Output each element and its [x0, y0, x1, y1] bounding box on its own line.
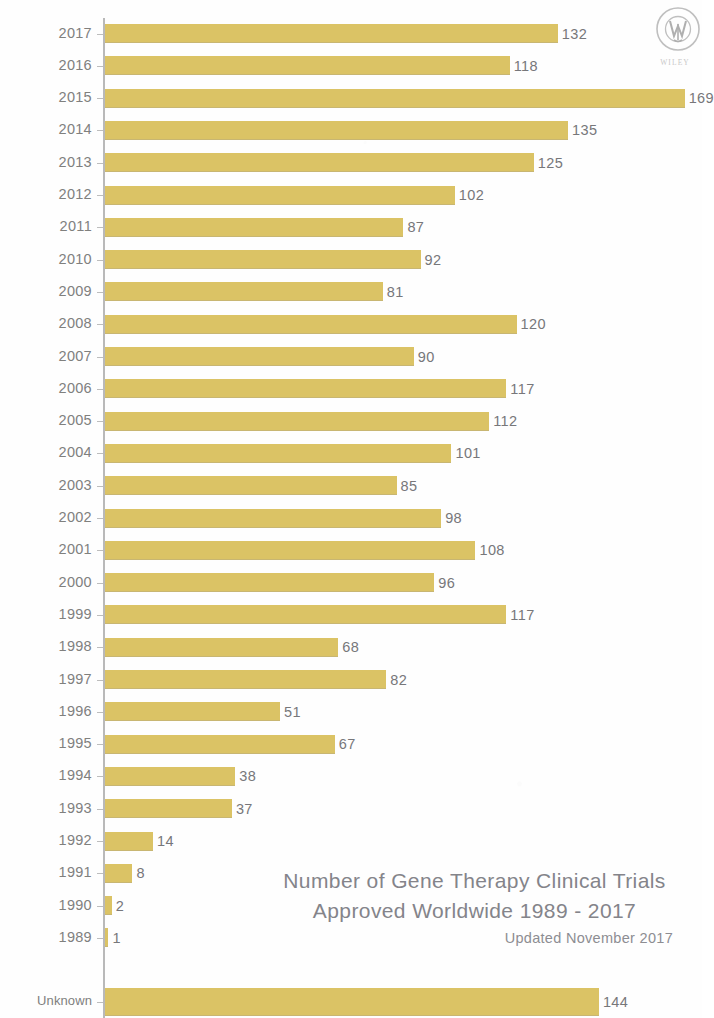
category-label-1994: 1994 — [0, 767, 92, 783]
value-label-1992: 14 — [157, 833, 174, 849]
axis-tick — [97, 292, 103, 293]
bar-row: 2016118 — [0, 54, 702, 79]
axis-tick — [97, 486, 103, 487]
bar-2003 — [105, 476, 397, 495]
value-label-2005: 112 — [493, 413, 517, 429]
value-label-unknown: 144 — [603, 994, 628, 1010]
value-label-2002: 98 — [445, 510, 462, 526]
bar-1993 — [105, 799, 232, 818]
category-label-2002: 2002 — [0, 509, 92, 525]
bar-2008 — [105, 315, 517, 334]
axis-tick — [97, 357, 103, 358]
value-label-2006: 117 — [510, 381, 534, 397]
chart-title-line-1: Number of Gene Therapy Clinical Trials — [262, 866, 687, 896]
axis-tick — [97, 34, 103, 35]
category-label-2014: 2014 — [0, 121, 92, 137]
axis-tick — [97, 227, 103, 228]
bar-1990 — [105, 896, 112, 915]
value-label-2011: 87 — [407, 219, 424, 235]
axis-tick — [97, 809, 103, 810]
bar-2005 — [105, 412, 489, 431]
category-label-1999: 1999 — [0, 606, 92, 622]
bar-2006 — [105, 379, 506, 398]
value-label-2010: 92 — [425, 252, 442, 268]
value-label-1997: 82 — [390, 672, 407, 688]
bar-row: 200096 — [0, 571, 702, 596]
axis-tick — [97, 98, 103, 99]
bar-row: 2015169 — [0, 87, 702, 112]
bar-row: 199651 — [0, 700, 702, 725]
category-label-2003: 2003 — [0, 477, 92, 493]
axis-tick — [97, 324, 103, 325]
value-label-1996: 51 — [284, 704, 301, 720]
axis-tick — [97, 389, 103, 390]
value-label-2012: 102 — [459, 187, 484, 203]
bar-row: 2001108 — [0, 539, 702, 564]
category-label-1992: 1992 — [0, 832, 92, 848]
value-label-2017: 132 — [562, 26, 587, 42]
bar-2001 — [105, 541, 475, 560]
value-label-2003: 85 — [401, 478, 418, 494]
category-label-1996: 1996 — [0, 703, 92, 719]
category-label-2010: 2010 — [0, 251, 92, 267]
bar-row: 2017132 — [0, 22, 702, 47]
bar-2013 — [105, 153, 534, 172]
value-label-1998: 68 — [342, 639, 359, 655]
bar-2016 — [105, 56, 510, 75]
bar-row: 2005112 — [0, 410, 702, 435]
axis-tick — [97, 66, 103, 67]
chart-title: Number of Gene Therapy Clinical Trials A… — [262, 866, 687, 926]
axis-tick — [97, 583, 103, 584]
category-label-1993: 1993 — [0, 800, 92, 816]
bar-1995 — [105, 735, 335, 754]
bar-unknown — [105, 988, 599, 1016]
value-label-2013: 125 — [538, 155, 563, 171]
category-label-2000: 2000 — [0, 574, 92, 590]
bar-2010 — [105, 250, 421, 269]
value-label-2015: 169 — [689, 90, 714, 106]
axis-tick — [97, 453, 103, 454]
bar-2000 — [105, 573, 434, 592]
bar-2011 — [105, 218, 403, 237]
value-label-1990: 2 — [116, 898, 124, 914]
bar-1989 — [105, 928, 108, 947]
bar-2015 — [105, 89, 685, 108]
category-label-2016: 2016 — [0, 57, 92, 73]
category-label-2008: 2008 — [0, 315, 92, 331]
bar-row: 199214 — [0, 830, 702, 855]
bar-2009 — [105, 282, 383, 301]
bar-1998 — [105, 638, 338, 657]
value-label-2007: 90 — [418, 349, 435, 365]
axis-tick — [97, 873, 103, 874]
value-label-2001: 108 — [479, 542, 504, 558]
category-label-1989: 1989 — [0, 929, 92, 945]
value-label-1989: 1 — [112, 930, 120, 946]
bar-1997 — [105, 670, 386, 689]
value-label-1991: 8 — [136, 865, 144, 881]
bar-1999 — [105, 605, 506, 624]
category-label-1990: 1990 — [0, 897, 92, 913]
bar-row: 199868 — [0, 636, 702, 661]
bar-row: 200385 — [0, 474, 702, 499]
bar-row: 199337 — [0, 797, 702, 822]
bar-row: 2004101 — [0, 442, 702, 467]
bar-row: 2012102 — [0, 184, 702, 209]
value-label-2009: 81 — [387, 284, 404, 300]
value-label-1999: 117 — [510, 607, 534, 623]
axis-tick — [97, 906, 103, 907]
bar-1991 — [105, 864, 132, 883]
bar-row: 199438 — [0, 765, 702, 790]
bar-2007 — [105, 347, 414, 366]
value-label-1995: 67 — [339, 736, 356, 752]
category-label-2013: 2013 — [0, 154, 92, 170]
category-label-2006: 2006 — [0, 380, 92, 396]
category-label-1997: 1997 — [0, 671, 92, 687]
bar-row: 2014135 — [0, 119, 702, 144]
axis-tick — [97, 163, 103, 164]
category-label-unknown: Unknown — [0, 993, 92, 1008]
chart-title-line-2: Approved Worldwide 1989 - 2017 — [262, 896, 687, 926]
bar-row: 200981 — [0, 280, 702, 305]
axis-tick — [97, 841, 103, 842]
category-label-2015: 2015 — [0, 89, 92, 105]
category-label-2009: 2009 — [0, 283, 92, 299]
